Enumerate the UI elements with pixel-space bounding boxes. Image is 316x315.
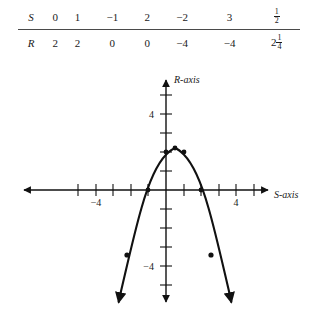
- cell-s-6-fraction: 12: [253, 6, 300, 30]
- parabola-curve: [121, 148, 230, 293]
- data-point-vertex: [173, 146, 178, 151]
- parabola-left-arrow: [119, 293, 121, 302]
- cell-r-5: −4: [206, 30, 254, 54]
- parabola-right-arrow: [230, 293, 232, 302]
- cell-r-6-frac: 14: [276, 34, 282, 50]
- cell-s-0: 0: [44, 6, 66, 30]
- x-tick-label-neg4: −4: [91, 197, 102, 208]
- table-row-r: R 2 2 0 0 −4 −4 214: [18, 30, 300, 54]
- cell-s-4: −2: [158, 6, 206, 30]
- plotted-points-group: [124, 146, 213, 258]
- value-table: S 0 1 −1 2 −2 3 12 R 2 2 0 0 −4 −4: [18, 6, 300, 53]
- data-point-neg2-neg4: [124, 252, 129, 257]
- cell-r-1: 2: [66, 30, 88, 54]
- cell-r-2: 0: [89, 30, 137, 54]
- data-point-2-0: [199, 188, 204, 193]
- parabola-curve-group: [119, 148, 232, 302]
- data-point-3-neg4: [208, 252, 213, 257]
- y-axis-label: R-axis: [173, 74, 200, 85]
- cell-r-6-fraction: 214: [253, 30, 300, 54]
- x-tick-label-pos4: 4: [234, 197, 239, 208]
- y-tick-label-neg4: −4: [143, 261, 154, 272]
- data-point-0-2: [164, 150, 169, 155]
- figure-page: S 0 1 −1 2 −2 3 12 R 2 2 0 0 −4 −4: [0, 0, 316, 315]
- row-variable-s: S: [18, 6, 44, 30]
- cell-s-2: −1: [89, 6, 137, 30]
- cell-s-6-denominator: 2: [274, 17, 280, 25]
- data-point-neg1-0: [146, 188, 151, 193]
- y-tick-label-pos4: 4: [149, 109, 154, 120]
- graph-svg: −4 4 4 −4 R-axis S-axis: [0, 56, 316, 315]
- cell-s-1: 1: [66, 6, 88, 30]
- cell-r-0: 2: [44, 30, 66, 54]
- cell-s-3: 2: [136, 6, 158, 30]
- x-axis-label: S-axis: [274, 189, 299, 200]
- cell-r-4: −4: [158, 30, 206, 54]
- data-point-1-2: [182, 150, 187, 155]
- cell-r-6-denominator: 4: [276, 43, 282, 51]
- cell-s-6-frac: 12: [274, 8, 280, 24]
- value-table-body: S 0 1 −1 2 −2 3 12 R 2 2 0 0 −4 −4: [18, 6, 300, 53]
- parabola-graph: −4 4 4 −4 R-axis S-axis: [0, 56, 316, 315]
- table-row-s: S 0 1 −1 2 −2 3 12: [18, 6, 300, 30]
- cell-r-3: 0: [136, 30, 158, 54]
- cell-s-5: 3: [206, 6, 254, 30]
- row-variable-r: R: [18, 30, 44, 54]
